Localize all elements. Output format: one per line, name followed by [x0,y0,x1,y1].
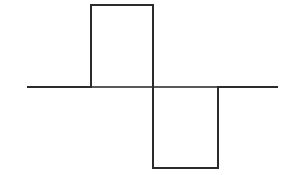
waveform-figure [0,0,295,175]
waveform-canvas [0,0,295,175]
